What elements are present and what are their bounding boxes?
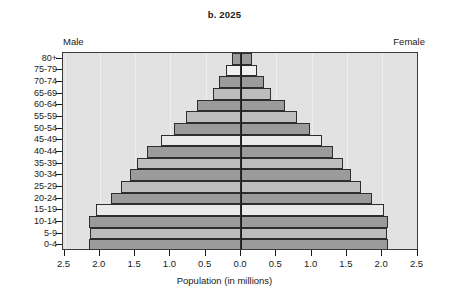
pyramid-row xyxy=(63,193,417,205)
female-side-label: Female xyxy=(393,36,425,47)
pyramid-row xyxy=(63,65,417,77)
pyramid-row xyxy=(63,169,417,181)
bar-male xyxy=(121,181,241,193)
bar-female xyxy=(241,216,388,228)
x-axis-tick xyxy=(346,250,347,256)
pyramid-row xyxy=(63,123,417,135)
y-axis-tick-label: 30-34 xyxy=(34,169,57,179)
bar-male xyxy=(186,111,241,123)
y-axis-tick-label: 5-9 xyxy=(44,228,57,238)
bar-male xyxy=(89,239,241,250)
bar-female xyxy=(241,181,361,193)
x-axis-tick-label: 2.0 xyxy=(79,258,119,269)
bar-male xyxy=(89,216,241,228)
bar-male xyxy=(90,228,241,240)
pyramid-row xyxy=(63,239,417,250)
bar-female xyxy=(241,53,252,65)
bar-female xyxy=(241,228,387,240)
bar-female xyxy=(241,239,388,250)
bar-female xyxy=(241,76,264,88)
x-axis-tick-label: 2.5 xyxy=(397,258,437,269)
bar-male xyxy=(147,146,241,158)
bar-female xyxy=(241,193,372,205)
bar-female xyxy=(241,111,297,123)
bar-female xyxy=(241,158,343,170)
bar-male xyxy=(197,100,241,112)
y-axis-tick-label: 10-14 xyxy=(34,216,57,226)
bar-female xyxy=(241,169,351,181)
bar-male xyxy=(226,65,241,77)
bar-female xyxy=(241,100,285,112)
plot-area xyxy=(62,52,418,250)
bar-female xyxy=(241,135,322,147)
y-axis-tick-label: 15-19 xyxy=(34,204,57,214)
male-side-label: Male xyxy=(63,36,84,47)
center-axis-line xyxy=(241,53,242,249)
bar-male xyxy=(161,135,241,147)
pyramid-row xyxy=(63,135,417,147)
pyramid-row xyxy=(63,53,417,65)
pyramid-row xyxy=(63,204,417,216)
gridline xyxy=(418,53,419,249)
pyramid-row xyxy=(63,158,417,170)
x-axis-tick xyxy=(99,250,100,256)
x-axis-tick xyxy=(205,250,206,256)
pyramid-row xyxy=(63,111,417,123)
bar-female xyxy=(241,123,310,135)
y-axis-tick-label: 80+ xyxy=(42,53,57,63)
x-axis-tick xyxy=(381,250,382,256)
y-axis-tick-label: 35-39 xyxy=(34,158,57,168)
x-axis-tick-label: 1.5 xyxy=(326,258,366,269)
y-axis-tick-label: 65-69 xyxy=(34,88,57,98)
x-axis-tick-label: 1.0 xyxy=(149,258,189,269)
pyramid-row xyxy=(63,76,417,88)
bar-female xyxy=(241,146,333,158)
chart-title: b. 2025 xyxy=(0,9,449,20)
y-axis-tick-label: 25-29 xyxy=(34,181,57,191)
x-axis-tick xyxy=(134,250,135,256)
x-axis-tick-label: 1.0 xyxy=(291,258,331,269)
x-axis-title: Population (in millions) xyxy=(0,275,449,286)
x-axis-tick xyxy=(275,250,276,256)
x-axis-tick-label: 0.5 xyxy=(185,258,225,269)
bar-male xyxy=(137,158,241,170)
y-axis-tick-label: 50-54 xyxy=(34,123,57,133)
bar-female xyxy=(241,65,257,77)
x-axis-tick-label: 1.5 xyxy=(114,258,154,269)
y-axis-tick-label: 40-44 xyxy=(34,146,57,156)
bar-male xyxy=(219,76,241,88)
x-axis-tick-label: 0.0 xyxy=(220,258,260,269)
x-axis-tick-label: 2.5 xyxy=(44,258,84,269)
y-axis-tick-label: 0-4 xyxy=(44,239,57,249)
population-pyramid-chart: b. 2025 Male Female 80+75-7970-7465-6960… xyxy=(0,0,449,297)
y-axis-tick-label: 55-59 xyxy=(34,111,57,121)
x-axis-tick-label: 2.0 xyxy=(361,258,401,269)
bar-female xyxy=(241,88,271,100)
y-axis-tick-label: 45-49 xyxy=(34,134,57,144)
x-axis-tick xyxy=(311,250,312,256)
x-axis-tick xyxy=(240,250,241,256)
pyramid-row xyxy=(63,100,417,112)
y-axis-tick-label: 75-79 xyxy=(34,64,57,74)
y-axis-tick-label: 20-24 xyxy=(34,193,57,203)
bar-male xyxy=(130,169,241,181)
pyramid-row xyxy=(63,216,417,228)
bar-male xyxy=(174,123,241,135)
bar-female xyxy=(241,204,384,216)
bar-male xyxy=(232,53,241,65)
bar-male xyxy=(111,193,241,205)
bar-male xyxy=(96,204,241,216)
pyramid-row xyxy=(63,88,417,100)
x-axis-tick xyxy=(417,250,418,256)
x-axis-tick-label: 0.5 xyxy=(255,258,295,269)
x-axis-tick xyxy=(64,250,65,256)
pyramid-row xyxy=(63,146,417,158)
x-axis-tick xyxy=(169,250,170,256)
bar-male xyxy=(213,88,241,100)
pyramid-row xyxy=(63,228,417,240)
pyramid-row xyxy=(63,181,417,193)
y-axis-tick-label: 60-64 xyxy=(34,99,57,109)
y-axis-tick-label: 70-74 xyxy=(34,76,57,86)
